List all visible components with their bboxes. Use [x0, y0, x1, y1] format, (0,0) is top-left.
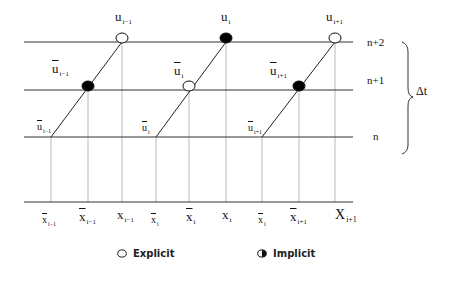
- label-ubar-i: ui: [174, 62, 183, 80]
- explicit-point-icon: [116, 33, 128, 43]
- axis-label-x-i-minus-1: xi−1: [117, 206, 134, 224]
- open-circle-icon: [117, 249, 127, 258]
- axis-label-x-i: xi: [222, 206, 231, 224]
- label-ubar-i-plus-1: ui+1: [270, 62, 287, 80]
- legend-explicit-label: Explicit: [133, 248, 174, 259]
- axis-label-xbar-i-minus-1-small: xi−1: [42, 210, 56, 227]
- legend-implicit-label: Implicit: [273, 248, 315, 259]
- axis-label-xbar-i-small-2: xi: [258, 210, 266, 227]
- label-level-n: n: [373, 130, 379, 142]
- label-level-n-plus-2: n+2: [367, 36, 384, 48]
- axis-label-xbar-i-plus-1: xi+1: [290, 208, 307, 226]
- legend-explicit: Explicit: [117, 248, 174, 259]
- label-foot-ubar-i: ui: [142, 118, 150, 135]
- delta-t-brace-icon: [402, 42, 413, 154]
- half-filled-circle-icon: [257, 249, 267, 258]
- label-ubar-i-minus-1: ui−1: [52, 60, 69, 78]
- label-u-i-plus-1: ui+1: [326, 8, 343, 26]
- label-foot-ubar-i-minus-1: ui−1: [37, 117, 51, 134]
- label-u-i-minus-1: ui−1: [115, 8, 132, 26]
- implicit-point-icon: [82, 81, 94, 91]
- axis-label-x-i-plus-1: Xi+1: [335, 206, 357, 224]
- axis-label-xbar-i-small: xi: [151, 210, 159, 227]
- axis-label-xbar-i-minus-1: xi−1: [79, 208, 96, 226]
- explicit-point-icon: [183, 81, 195, 91]
- label-delta-t: Δt: [416, 84, 427, 99]
- legend-implicit: Implicit: [257, 248, 315, 259]
- implicit-point-icon: [293, 81, 305, 91]
- axis-label-xbar-i: xi: [186, 208, 195, 226]
- label-foot-ubar-i-plus-1: ui+1: [248, 118, 262, 135]
- label-u-i: ui: [221, 8, 230, 26]
- label-level-n-plus-1: n+1: [367, 74, 384, 86]
- time-level-lines: [24, 42, 353, 202]
- implicit-point-icon: [220, 33, 232, 43]
- vertical-grid-lines: [51, 42, 335, 202]
- explicit-point-icon: [329, 33, 341, 43]
